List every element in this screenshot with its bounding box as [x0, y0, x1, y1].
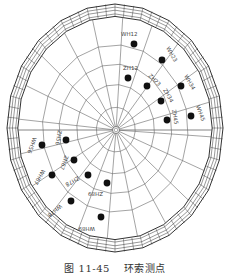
point-label: ZH78 [64, 175, 80, 188]
caption-title: 环索测点 [124, 260, 166, 275]
center-hub [113, 127, 120, 134]
point-label: ZH89 [88, 191, 103, 197]
point-marker-icon [159, 57, 166, 64]
point-label: WH45 [195, 104, 206, 122]
point-label: WH67 [33, 169, 47, 187]
point-marker-icon [49, 172, 56, 179]
point-marker-icon [158, 98, 165, 105]
point-label: WH23 [165, 46, 179, 64]
point-label: ZH67 [59, 155, 70, 172]
measurement-point-wh89: WH89 [78, 214, 104, 232]
point-marker-icon [68, 198, 75, 205]
point-label: WH12 [121, 31, 138, 37]
point-marker-icon [131, 41, 138, 48]
point-label: WH78 [46, 203, 63, 219]
measurement-point-wh67: WH67 [33, 169, 56, 187]
measurement-point-wh56: WH56 [26, 137, 45, 155]
measurement-point-zh34: ZH34 [158, 88, 175, 105]
measurement-point-zh67: ZH67 [59, 155, 78, 172]
measurement-point-zh89: ZH89 [88, 180, 111, 197]
point-label: WH34 [183, 74, 197, 92]
measurement-point-wh12: WH12 [121, 31, 138, 47]
point-marker-icon [144, 83, 151, 90]
measurement-point-zh23: ZH23 [144, 72, 163, 89]
cable-net-diagram: WH12WH23WH34WH45ZH12ZH23ZH34ZH45WH56WH67… [0, 0, 230, 258]
point-marker-icon [125, 75, 132, 82]
point-label: ZH45 [171, 109, 180, 125]
point-marker-icon [85, 172, 92, 179]
point-marker-icon [104, 180, 111, 187]
caption-number: 图 11-45 [64, 260, 110, 275]
point-label: ZH12 [123, 65, 138, 71]
point-marker-icon [71, 157, 78, 164]
point-label: ZH56 [54, 130, 63, 146]
measurement-point-wh23: WH23 [159, 46, 179, 64]
point-label: WH89 [78, 226, 95, 232]
measurement-point-zh78: ZH78 [64, 172, 91, 188]
point-marker-icon [164, 117, 171, 124]
point-marker-icon [63, 137, 70, 144]
point-marker-icon [39, 142, 46, 149]
measurement-point-wh45: WH45 [188, 104, 207, 122]
point-marker-icon [178, 83, 185, 90]
measurement-point-wh78: WH78 [46, 198, 74, 219]
measurement-point-zh45: ZH45 [164, 109, 180, 125]
point-marker-icon [188, 113, 195, 120]
point-marker-icon [98, 214, 105, 221]
figure-caption: 图 11-45 环索测点 [0, 260, 230, 275]
point-label: WH56 [26, 137, 37, 155]
